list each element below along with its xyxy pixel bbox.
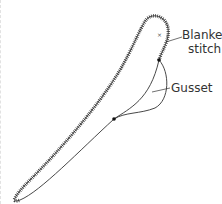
pattern-outline [15, 16, 169, 201]
gusset-leader [152, 88, 170, 92]
gusset-point-top [157, 58, 161, 62]
blanket-stitch-label-line1: Blanket [182, 28, 222, 42]
blanket-stitch [15, 16, 169, 201]
x-mark: × [157, 31, 162, 38]
gusset-curve [114, 60, 167, 119]
gusset-point-bottom [112, 117, 116, 121]
gusset-label: Gusset [171, 81, 213, 95]
blanket-stitch-label-line2: stitch [188, 42, 221, 56]
